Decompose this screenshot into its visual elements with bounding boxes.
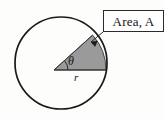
area-callout-box: Area, A: [103, 10, 164, 32]
radius-r-label: r: [74, 72, 78, 83]
shaded-sector: [54, 35, 106, 70]
angle-theta-label: θ: [68, 55, 74, 67]
area-callout-label: Area, A: [113, 15, 155, 28]
geometry-figure: Area, A θ r: [0, 0, 164, 119]
